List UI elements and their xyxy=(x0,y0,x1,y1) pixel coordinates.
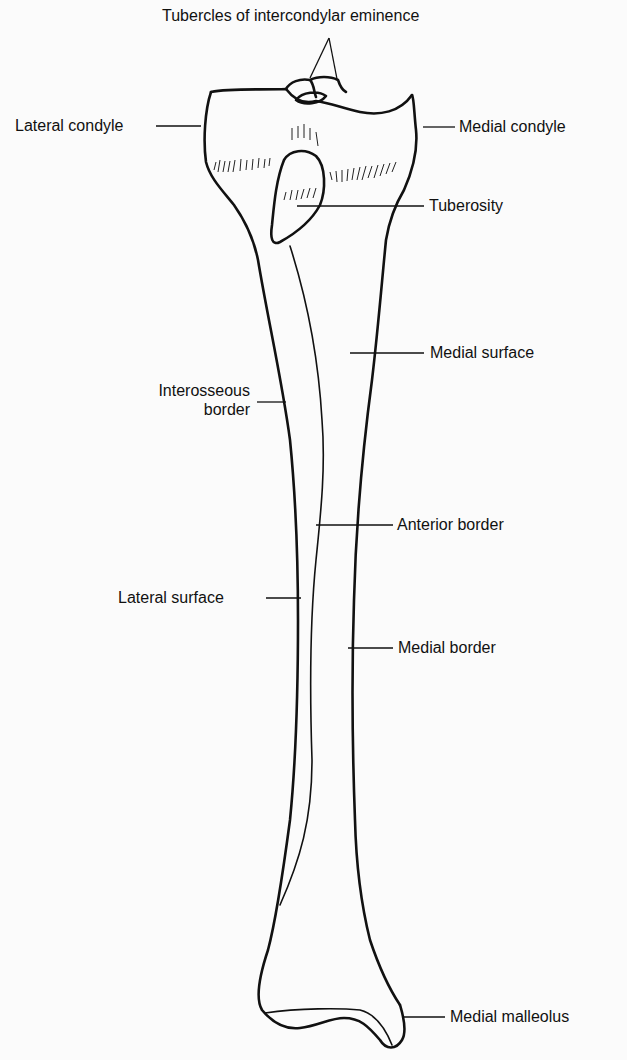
intercondylar-tubercles xyxy=(286,77,346,103)
label-anterior-border: Anterior border xyxy=(397,515,504,534)
label-lateral-condyle: Lateral condyle xyxy=(15,116,124,135)
bone-outline-lateral xyxy=(205,92,405,1048)
label-tubercles-intercondylar-eminence: Tubercles of intercondylar eminence xyxy=(162,6,419,25)
label-interosseous-line2: border xyxy=(130,400,250,419)
tibial-tuberosity xyxy=(271,151,324,243)
bone-outline-medial xyxy=(353,95,417,1005)
leader-tubercles-a xyxy=(310,38,329,78)
leader-tubercles-b xyxy=(329,38,337,79)
label-tuberosity: Tuberosity xyxy=(429,196,503,215)
tibia-drawing xyxy=(0,0,627,1060)
label-medial-condyle: Medial condyle xyxy=(459,117,566,136)
label-interosseous-border: Interosseous border xyxy=(130,381,250,419)
label-interosseous-line1: Interosseous xyxy=(130,381,250,400)
hatching xyxy=(214,124,396,200)
tibia-diagram: Tubercles of intercondylar eminence Late… xyxy=(0,0,627,1060)
anterior-border-line xyxy=(280,246,323,905)
label-medial-malleolus: Medial malleolus xyxy=(450,1007,569,1026)
label-medial-surface: Medial surface xyxy=(430,343,534,362)
label-medial-border: Medial border xyxy=(398,638,496,657)
label-lateral-surface: Lateral surface xyxy=(118,588,224,607)
